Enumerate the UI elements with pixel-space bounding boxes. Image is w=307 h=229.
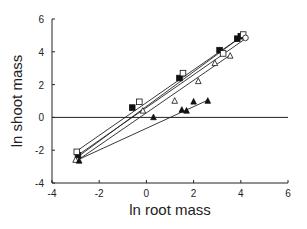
open-triangle-fit-line: [78, 55, 230, 160]
open-square-marker: [180, 70, 186, 76]
open-square-marker: [137, 99, 143, 105]
scatter-chart: -4-20246 -4-20246 ln root mass ln shoot …: [0, 0, 307, 229]
open-circle-marker: [243, 35, 249, 41]
x-tick-label: -4: [48, 188, 57, 199]
open-square-marker: [220, 51, 226, 57]
y-axis-label: ln shoot mass: [8, 55, 25, 148]
open-square-marker: [74, 149, 80, 155]
open-triangle-marker: [227, 53, 233, 59]
filled-square-marker: [129, 105, 135, 111]
y-tick-label: 6: [38, 14, 44, 25]
filled-triangle-marker: [151, 114, 157, 120]
y-tick-label: -2: [35, 145, 44, 156]
plot-frame: [52, 19, 288, 183]
x-axis-label: ln root mass: [129, 201, 211, 218]
x-tick-label: 4: [238, 188, 244, 199]
y-tick-label: 4: [38, 47, 44, 58]
filled-square-fit-line: [77, 36, 242, 157]
filled-triangle-marker: [205, 98, 211, 104]
open-triangle-marker: [172, 98, 178, 104]
x-tick-label: -2: [95, 188, 104, 199]
x-tick-label: 0: [144, 188, 150, 199]
x-tick-label: 2: [191, 188, 197, 199]
y-tick-label: -4: [35, 178, 44, 189]
y-tick-label: 0: [38, 112, 44, 123]
x-tick-label: 6: [285, 188, 291, 199]
filled-triangle-marker: [179, 107, 185, 113]
y-tick-label: 2: [38, 80, 44, 91]
filled-triangle-marker: [191, 99, 197, 105]
